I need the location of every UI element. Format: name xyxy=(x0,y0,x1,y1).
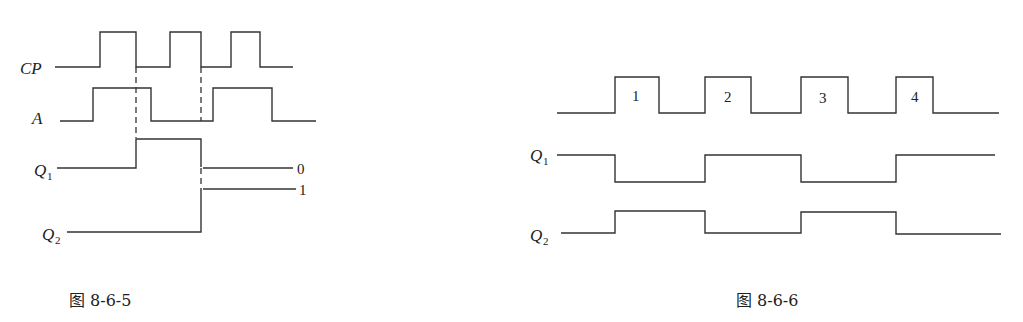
q1-waveform xyxy=(57,139,201,168)
q1-waveform-right xyxy=(557,155,995,182)
end-label-0: 0 xyxy=(297,161,305,177)
q2-label-right: Q xyxy=(530,226,542,245)
a-waveform xyxy=(60,88,316,121)
pulse-number-2: 2 xyxy=(724,89,732,105)
a-label: A xyxy=(31,109,43,128)
q2-label-right-sub: 2 xyxy=(543,235,549,247)
timing-diagrams: CP A Q 1 0 1 Q 2 1 2 3 4 Q 1 Q 2 xyxy=(0,0,1023,322)
figure-8-6-6: 1 2 3 4 Q 1 Q 2 xyxy=(530,77,1001,247)
q1-label-right: Q xyxy=(530,146,542,165)
cp-label: CP xyxy=(20,59,42,78)
end-label-1: 1 xyxy=(299,182,307,198)
q1-label-sub: 1 xyxy=(47,170,53,182)
q2-label: Q xyxy=(42,225,54,244)
q1-branch-1 xyxy=(67,188,201,232)
q2-label-sub: 2 xyxy=(55,234,61,246)
pulse-number-4: 4 xyxy=(911,89,919,105)
caption-figure-8-6-5: 图 8-6-5 xyxy=(69,287,131,311)
cp-waveform-right xyxy=(557,77,999,113)
q1-label: Q xyxy=(34,161,46,180)
caption-figure-8-6-6: 图 8-6-6 xyxy=(736,287,798,311)
figure-8-6-5: CP A Q 1 0 1 Q 2 xyxy=(20,32,316,246)
cp-waveform xyxy=(55,32,293,67)
q1-label-right-sub: 1 xyxy=(543,155,549,167)
pulse-number-3: 3 xyxy=(819,90,827,106)
q2-waveform-right xyxy=(561,211,1001,234)
pulse-number-1: 1 xyxy=(632,88,640,104)
